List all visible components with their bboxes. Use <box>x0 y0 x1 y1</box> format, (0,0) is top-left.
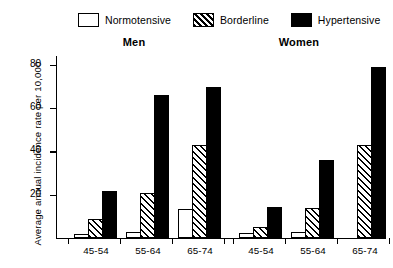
bar-men-45-54-normotensive <box>74 234 89 238</box>
bar-women-45-54-normotensive <box>239 233 254 238</box>
x-label-men-55-64: 55-64 <box>135 246 161 256</box>
bar-women-45-54-borderline <box>253 227 268 238</box>
panel-title-women: Women <box>279 36 320 48</box>
x-tick-women-55-64 <box>285 238 286 244</box>
black-square-swatch-icon <box>291 13 312 27</box>
white-square-swatch-icon <box>78 13 99 27</box>
x-label-women-45-54: 45-54 <box>248 246 274 256</box>
legend-item-normotensive: Normotensive <box>78 13 171 27</box>
chart-legend: Normotensive Borderline Hypertensive <box>78 10 388 30</box>
bar-men-65-74-normotensive <box>178 209 193 238</box>
hatched-square-swatch-icon <box>193 13 214 27</box>
bar-women-55-64-normotensive <box>291 232 306 239</box>
plot-area: 20 40 60 80 Men Women <box>56 56 386 238</box>
x-label-women-65-74: 65-74 <box>352 246 378 256</box>
x-label-women-55-64: 55-64 <box>300 246 326 256</box>
legend-label-hypertensive: Hypertensive <box>318 15 380 26</box>
legend-item-borderline: Borderline <box>193 13 269 27</box>
x-tick-men-65-74 <box>172 238 173 244</box>
y-tick-20: 20 <box>50 195 56 196</box>
bar-men-45-54-hypertensive <box>102 191 117 238</box>
x-tick-women-end <box>389 238 390 244</box>
chart-container: Normotensive Borderline Hypertensive Ave… <box>0 0 393 268</box>
y-axis-line <box>56 56 57 238</box>
bar-men-55-64-normotensive <box>126 232 141 239</box>
bar-men-55-64-borderline <box>140 193 155 239</box>
y-tick-label-80: 80 <box>30 59 41 69</box>
bar-men-65-74-hypertensive <box>206 87 221 238</box>
y-tick-label-40: 40 <box>30 145 41 155</box>
y-tick-40: 40 <box>50 151 56 152</box>
x-tick-women-45-54 <box>233 238 234 244</box>
legend-label-normotensive: Normotensive <box>105 15 171 26</box>
bar-men-45-54-borderline <box>88 219 103 239</box>
x-tick-men-45-54 <box>68 238 69 244</box>
legend-label-borderline: Borderline <box>220 15 269 26</box>
bar-men-65-74-borderline <box>192 145 207 238</box>
bar-women-55-64-borderline <box>305 208 320 238</box>
bar-women-65-74-hypertensive <box>371 67 386 238</box>
x-label-men-45-54: 45-54 <box>83 246 109 256</box>
y-tick-label-20: 20 <box>30 189 41 199</box>
y-tick-60: 60 <box>50 108 56 109</box>
panel-title-men: Men <box>123 36 146 48</box>
bar-women-45-54-hypertensive <box>267 207 282 238</box>
y-tick-80: 80 <box>50 65 56 66</box>
y-tick-label-60: 60 <box>30 102 41 112</box>
x-tick-women-65-74 <box>337 238 338 244</box>
bar-women-55-64-hypertensive <box>319 160 334 238</box>
legend-item-hypertensive: Hypertensive <box>291 13 380 27</box>
bar-men-55-64-hypertensive <box>154 95 169 238</box>
x-tick-men-55-64 <box>120 238 121 244</box>
x-tick-men-end <box>224 238 225 244</box>
bar-women-65-74-borderline <box>357 145 372 238</box>
x-label-men-65-74: 65-74 <box>187 246 213 256</box>
